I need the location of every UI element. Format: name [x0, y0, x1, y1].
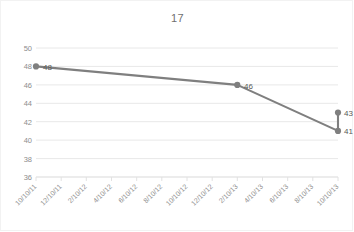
- data-point-label: 48: [43, 63, 52, 72]
- data-series: [33, 63, 341, 134]
- data-point-marker: [335, 128, 341, 134]
- data-point-marker: [335, 109, 341, 115]
- y-tick-label: 48: [24, 62, 32, 71]
- x-tick-label: 6/10/12: [117, 183, 139, 205]
- chart-plot-area: 50 48 46 44 42 40 38 36: [1, 1, 354, 232]
- x-tick-label: 12/10/11: [39, 183, 63, 207]
- data-point-label: 41: [344, 127, 353, 136]
- y-tick-label: 50: [24, 44, 32, 53]
- y-tick-label: 44: [24, 99, 32, 108]
- x-tick-label: 2/10/13: [218, 183, 240, 205]
- y-tick-label: 46: [24, 81, 32, 90]
- x-axis-labels: 10/10/11 12/10/11 2/10/12 4/10/12 6/10/1…: [14, 183, 340, 207]
- x-tick-label: 8/10/12: [142, 183, 164, 205]
- x-tick-label: 8/10/13: [293, 183, 315, 205]
- x-tick-label: 4/10/12: [92, 183, 114, 205]
- x-axis-ticks: [36, 177, 338, 181]
- x-tick-label: 10/10/12: [164, 183, 188, 207]
- x-tick-label: 4/10/13: [243, 183, 265, 205]
- data-point-label: 43: [344, 109, 353, 118]
- data-point-labels: 48 46 43 41: [43, 63, 353, 137]
- x-tick-label: 12/10/12: [190, 183, 214, 207]
- data-point-marker: [33, 63, 39, 69]
- y-axis-labels: 50 48 46 44 42 40 38 36: [24, 44, 32, 182]
- x-tick-label: 10/10/13: [315, 183, 339, 207]
- y-tick-label: 42: [24, 118, 32, 127]
- x-tick-label: 6/10/13: [268, 183, 290, 205]
- x-tick-label: 2/10/12: [67, 183, 89, 205]
- gridlines: [36, 48, 338, 177]
- y-tick-label: 38: [24, 155, 32, 164]
- data-point-label: 46: [244, 82, 253, 91]
- data-point-marker: [234, 82, 240, 88]
- x-tick-label: 10/10/11: [14, 183, 38, 207]
- y-tick-label: 36: [24, 173, 32, 182]
- y-tick-label: 40: [24, 136, 32, 145]
